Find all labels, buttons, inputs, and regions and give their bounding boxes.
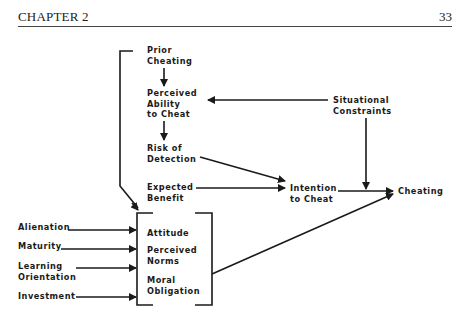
node-expected-benefit: Expected Benefit xyxy=(147,182,193,203)
line-prior-to-group xyxy=(120,51,138,208)
node-attitude: Attitude xyxy=(147,228,189,239)
node-learning-orientation: Learning Orientation xyxy=(18,261,76,282)
arrow-risk-to-intention xyxy=(200,157,285,181)
node-prior-cheating: Prior Cheating xyxy=(147,45,192,66)
node-maturity: Maturity xyxy=(18,241,62,252)
node-alienation: Alienation xyxy=(18,222,70,233)
node-cheating: Cheating xyxy=(398,186,443,197)
node-perceived-norms: Perceived Norms xyxy=(147,245,197,266)
node-intention-to-cheat: Intention to Cheat xyxy=(290,183,337,204)
arrow-group-to-cheating xyxy=(212,194,393,274)
node-risk-of-detection: Risk of Detection xyxy=(147,143,196,164)
node-situational-constraints: Situational Constraints xyxy=(333,95,392,116)
node-moral-obligation: Moral Obligation xyxy=(147,275,200,296)
node-investment: Investment xyxy=(18,291,75,302)
node-perceived-ability: Perceived Ability to Cheat xyxy=(147,88,197,120)
